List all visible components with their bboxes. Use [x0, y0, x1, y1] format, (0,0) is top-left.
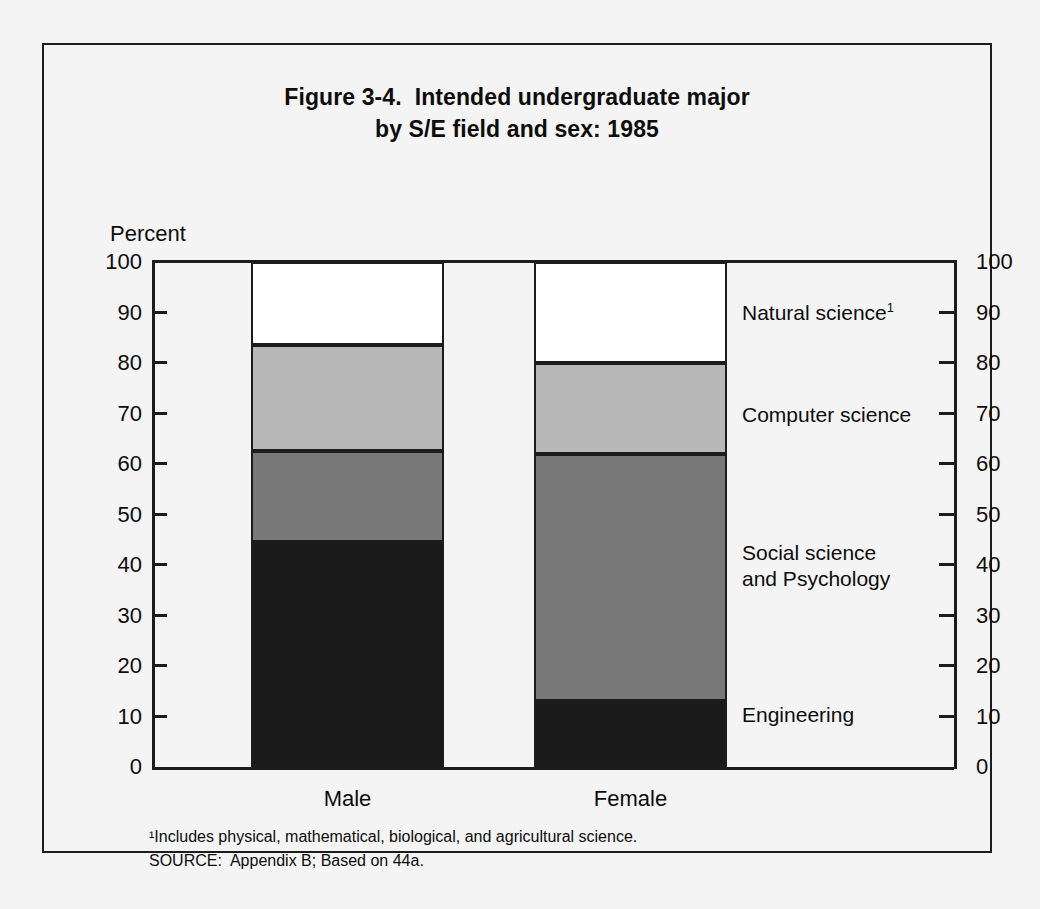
y-tick-label-left-90: 90	[72, 302, 142, 324]
title-line-1: Figure 3-4. Intended undergraduate major	[44, 81, 990, 113]
figure-notes: ¹Includes physical, mathematical, biolog…	[149, 825, 637, 873]
x-category-label-female: Female	[534, 786, 727, 812]
tick-right-70	[939, 412, 954, 415]
source-text: SOURCE: Appendix B; Based on 44a.	[149, 849, 637, 873]
legend-natural-text: Natural science	[742, 301, 887, 324]
tick-left-70	[152, 412, 167, 415]
bar-female-segment-natural[interactable]	[534, 262, 727, 363]
footnote-text: ¹Includes physical, mathematical, biolog…	[149, 825, 637, 849]
y-tick-label-right-90: 90	[976, 302, 1040, 324]
tick-right-40	[939, 563, 954, 566]
bar-male-segment-engineering[interactable]	[251, 542, 444, 767]
y-tick-label-left-70: 70	[72, 403, 142, 425]
bar-female-segment-social[interactable]	[534, 454, 727, 702]
y-tick-label-left-30: 30	[72, 605, 142, 627]
tick-left-60	[152, 462, 167, 465]
bar-male-segment-natural[interactable]	[251, 262, 444, 345]
legend-label-natural-science: Natural science1	[742, 300, 894, 326]
tick-left-90	[152, 311, 167, 314]
tick-right-80	[939, 361, 954, 364]
bar-female[interactable]	[534, 262, 727, 767]
y-tick-label-left-10: 10	[72, 706, 142, 728]
y-tick-label-right-0: 0	[976, 756, 1040, 778]
legend-label-social-science: Social science and Psychology	[742, 540, 890, 592]
legend-label-computer-science: Computer science	[742, 402, 911, 428]
tick-right-60	[939, 462, 954, 465]
y-tick-label-left-0: 0	[72, 756, 142, 778]
bar-female-segment-computer[interactable]	[534, 363, 727, 454]
y-tick-label-left-50: 50	[72, 504, 142, 526]
tick-left-30	[152, 614, 167, 617]
y-tick-label-left-80: 80	[72, 352, 142, 374]
y-tick-label-left-40: 40	[72, 554, 142, 576]
tick-left-40	[152, 563, 167, 566]
x-category-label-male: Male	[251, 786, 444, 812]
y-tick-label-left-20: 20	[72, 655, 142, 677]
tick-right-10	[939, 715, 954, 718]
legend-label-engineering: Engineering	[742, 702, 854, 728]
figure-page: Figure 3-4. Intended undergraduate major…	[0, 0, 1040, 909]
axis-right-line	[954, 260, 957, 769]
y-tick-label-right-30: 30	[976, 605, 1040, 627]
tick-left-80	[152, 361, 167, 364]
tick-right-30	[939, 614, 954, 617]
tick-right-90	[939, 311, 954, 314]
tick-left-50	[152, 513, 167, 516]
title-line-2: by S/E field and sex: 1985	[44, 113, 990, 145]
y-tick-label-left-60: 60	[72, 453, 142, 475]
y-tick-label-right-40: 40	[976, 554, 1040, 576]
y-tick-label-right-70: 70	[976, 403, 1040, 425]
y-tick-label-right-80: 80	[976, 352, 1040, 374]
figure-frame: Figure 3-4. Intended undergraduate major…	[42, 43, 992, 853]
plot-area: 100 90 80 70 60 50 40 30 20 10 0 100 90 …	[152, 262, 954, 767]
tick-right-20	[939, 664, 954, 667]
y-tick-label-right-60: 60	[976, 453, 1040, 475]
bar-male[interactable]	[251, 262, 444, 767]
tick-right-50	[939, 513, 954, 516]
y-tick-label-right-100: 100	[976, 251, 1040, 273]
tick-left-10	[152, 715, 167, 718]
y-tick-label-right-10: 10	[976, 706, 1040, 728]
bar-male-segment-social[interactable]	[251, 451, 444, 542]
y-tick-label-left-100: 100	[72, 251, 142, 273]
y-tick-label-right-20: 20	[976, 655, 1040, 677]
tick-left-20	[152, 664, 167, 667]
figure-title: Figure 3-4. Intended undergraduate major…	[44, 81, 990, 145]
bar-male-segment-computer[interactable]	[251, 345, 444, 451]
axis-bottom-line	[152, 767, 954, 770]
footnote-marker-icon: 1	[887, 300, 894, 315]
y-axis-label: Percent	[110, 221, 186, 247]
bar-female-segment-engineering[interactable]	[534, 701, 727, 767]
y-tick-label-right-50: 50	[976, 504, 1040, 526]
